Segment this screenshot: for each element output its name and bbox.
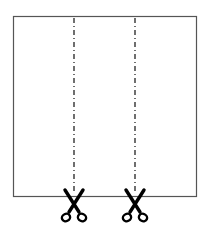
cutting-diagram [0,0,207,232]
paper-sheet [14,17,197,197]
